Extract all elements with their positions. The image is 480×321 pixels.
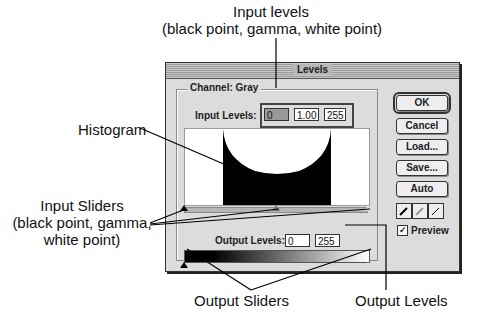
callout-lines (0, 0, 480, 321)
